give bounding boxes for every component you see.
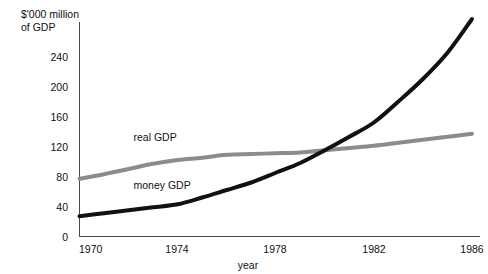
x-tick-label-1974: 1974: [165, 243, 189, 255]
y-tick-label-120: 120: [50, 141, 68, 153]
y-tick-label-200: 200: [50, 81, 68, 93]
x-tick-label-1970: 1970: [79, 243, 103, 255]
series-label-money-gdp: money GDP: [134, 179, 191, 191]
x-tick-label-1978: 1978: [263, 243, 287, 255]
y-axis-title-line2: of GDP: [21, 21, 55, 33]
y-tick-label-240: 240: [50, 51, 68, 63]
gdp-line-chart: $'000 million of GDP 240 200 160 120 80 …: [0, 0, 488, 274]
x-tick-label-1982: 1982: [362, 243, 386, 255]
series-label-real-gdp: real GDP: [134, 131, 177, 143]
x-axis-title: year: [238, 259, 259, 271]
y-tick-label-40: 40: [56, 201, 68, 213]
y-tick-label-80: 80: [56, 171, 68, 183]
y-tick-label-0: 0: [62, 231, 68, 243]
y-tick-label-160: 160: [50, 111, 68, 123]
y-axis-title-line1: $'000 million: [21, 8, 79, 20]
x-tick-label-1986: 1986: [460, 243, 484, 255]
chart-svg: $'000 million of GDP 240 200 160 120 80 …: [0, 0, 488, 274]
